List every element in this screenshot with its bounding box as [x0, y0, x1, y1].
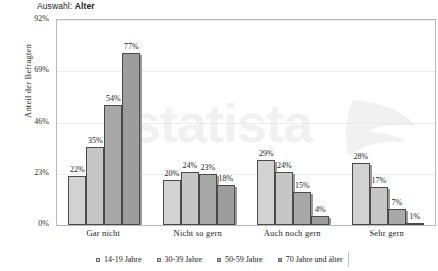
legend-label: 14-19 Jahre: [104, 256, 142, 264]
bar-rect: [122, 53, 140, 225]
bar[interactable]: [86, 147, 104, 225]
bar[interactable]: [275, 172, 293, 225]
bar[interactable]: [181, 172, 199, 225]
legend-swatch-icon: [278, 258, 282, 262]
legend-item[interactable]: 70 Jahre und älter: [278, 256, 343, 264]
bar-value-label: 29%: [251, 149, 281, 158]
legend-swatch-icon: [217, 258, 221, 262]
bar-value-label: 28%: [346, 152, 376, 161]
bar-rect: [257, 160, 275, 225]
legend-label: 70 Jahre und älter: [286, 256, 343, 264]
y-axis-label: Anteil der Befragten: [23, 6, 33, 156]
legend-item[interactable]: 14-19 Jahre: [96, 256, 142, 264]
bar-rect: [217, 185, 235, 225]
legend-swatch-icon: [157, 258, 161, 262]
y-tick-label: 69%: [0, 65, 49, 74]
bar-value-label: 7%: [382, 198, 412, 207]
title-prefix: Auswahl:: [37, 1, 75, 11]
bar-rect: [163, 180, 181, 225]
bar-value-label: 77%: [116, 42, 146, 51]
legend-label: 50-59 Jahre: [225, 256, 263, 264]
bar[interactable]: [406, 223, 424, 225]
bar-shadow: [235, 187, 237, 225]
bar[interactable]: [217, 185, 235, 225]
bar[interactable]: [257, 160, 275, 225]
legend-item[interactable]: 50-59 Jahre: [217, 256, 263, 264]
bar-value-label: 23%: [193, 163, 223, 172]
gridline: [57, 71, 435, 72]
y-tick-label: 0%: [0, 219, 49, 228]
bar-rect: [311, 216, 329, 225]
title-emphasis: Alter: [75, 1, 95, 11]
y-tick-label: 23%: [0, 168, 49, 177]
bar[interactable]: [104, 105, 122, 225]
bar-value-label: 15%: [287, 181, 317, 190]
x-tick-label: Nicht so gern: [151, 228, 246, 238]
legend-label: 30-39 Jahre: [165, 256, 203, 264]
bar-shadow: [140, 55, 142, 225]
bar-rect: [68, 176, 86, 225]
gridline: [57, 20, 435, 21]
bar-value-label: 24%: [269, 161, 299, 170]
bar-rect: [104, 105, 122, 225]
bar-value-label: 4%: [305, 205, 335, 214]
bar-rect: [275, 172, 293, 225]
bar-rect: [86, 147, 104, 225]
bar-shadow: [329, 218, 331, 225]
chart-screenshot: Auswahl: Alter Anteil der Befragten 0%23…: [0, 0, 438, 271]
y-tick-label: 46%: [0, 117, 49, 126]
x-tick-label: Gar nicht: [56, 228, 151, 238]
legend-swatch-icon: [96, 258, 100, 262]
x-tick-label: Sehr gern: [340, 228, 435, 238]
bar[interactable]: [163, 180, 181, 225]
bar[interactable]: [68, 176, 86, 225]
plot-area: statista 22%35%54%77%20%24%23%18%29%24%1…: [56, 19, 436, 226]
y-tick-label: 92%: [0, 14, 49, 23]
bar-rect: [181, 172, 199, 225]
x-tick-label: Auch noch gern: [245, 228, 340, 238]
legend-item[interactable]: 30-39 Jahre: [157, 256, 203, 264]
bar-rect: [406, 223, 424, 225]
legend: 14-19 Jahre30-39 Jahre50-59 Jahre70 Jahr…: [96, 252, 349, 267]
bar-value-label: 17%: [364, 176, 394, 185]
bar[interactable]: [352, 163, 370, 225]
bar-value-label: 18%: [211, 174, 241, 183]
page-title: Auswahl: Alter: [37, 1, 95, 11]
bar-value-label: 1%: [400, 212, 430, 221]
bar-rect: [352, 163, 370, 225]
bar[interactable]: [311, 216, 329, 225]
bar[interactable]: [122, 53, 140, 225]
